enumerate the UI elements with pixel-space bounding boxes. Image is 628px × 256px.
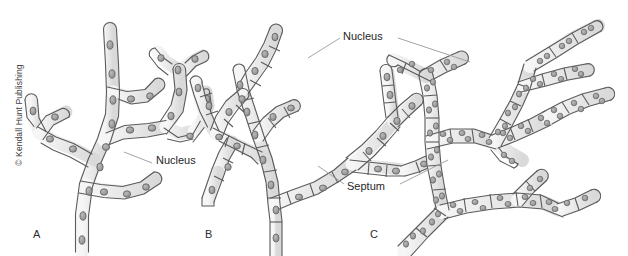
leader-nucleus-c	[398, 38, 470, 62]
label-nucleus-bc: Nucleus	[343, 30, 383, 42]
panel-letter-a: A	[33, 228, 40, 240]
label-septum-bc: Septum	[347, 180, 385, 192]
copyright-notice: © Kendall Hunt Publishing	[14, 50, 24, 180]
panel-letter-b: B	[205, 228, 212, 240]
panel-letter-c: C	[370, 228, 378, 240]
hyphae-illustration	[0, 0, 628, 256]
panel-c-hypha	[387, 21, 615, 256]
leader-nucleus-a	[124, 152, 152, 163]
label-nucleus-a: Nucleus	[156, 154, 196, 166]
leader-nucleus-b	[308, 38, 340, 58]
fungal-hyphae-figure: © Kendall Hunt Publishing A B C Nucleus …	[0, 0, 628, 256]
panel-a-hypha	[25, 23, 212, 253]
